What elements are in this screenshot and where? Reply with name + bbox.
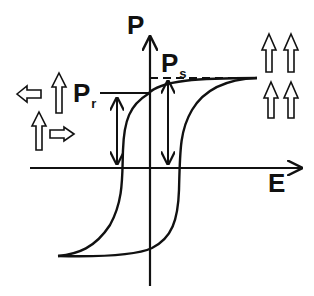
block-arrow-up-icon	[284, 82, 298, 118]
block-arrow-up-icon	[284, 34, 298, 72]
block-arrow-up-icon	[32, 112, 46, 150]
block-arrow-up-icon	[262, 34, 276, 72]
ps-main: P	[161, 48, 178, 78]
block-arrow-right-icon	[50, 127, 74, 141]
hysteresis-diagram: P E Pr Ps	[0, 0, 314, 296]
domain-arrows-left	[17, 73, 74, 150]
ps-subscript: s	[179, 66, 186, 81]
remanent-polarization-label: Pr	[73, 80, 96, 106]
block-arrow-up-icon	[264, 82, 278, 118]
domain-arrows-right	[262, 34, 298, 118]
diagram-graphics	[0, 0, 314, 296]
saturation-polarization-label: Ps	[161, 50, 187, 76]
block-arrow-up-icon	[52, 73, 66, 113]
pr-subscript: r	[91, 96, 96, 111]
p-axis-label: P	[127, 12, 144, 38]
block-arrow-left-icon	[17, 86, 41, 102]
e-axis-label: E	[268, 170, 285, 196]
pr-main: P	[73, 78, 90, 108]
